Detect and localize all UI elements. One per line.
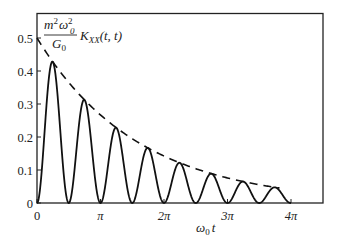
y-tick-label: 0.1 <box>17 164 33 178</box>
y-tick-label: 0.2 <box>17 131 33 145</box>
x-tick-label: 0 <box>34 209 40 223</box>
y-tick-label: 0.4 <box>17 65 33 79</box>
x-tick-label: π <box>97 209 104 223</box>
svg-text:KXX(t, t): KXX(t, t) <box>79 28 122 45</box>
oscillating-curve <box>37 62 291 203</box>
y-tick-label: 0.5 <box>17 32 33 46</box>
x-tick-label: 2π <box>158 209 171 223</box>
svg-text:m2ω2: m2ω2 <box>44 16 73 32</box>
x-tick-label: 4π <box>285 209 298 223</box>
svg-text:G0: G0 <box>52 36 66 53</box>
y-tick-label: 0 <box>27 197 33 211</box>
x-tick-label: 3π <box>220 209 234 223</box>
chart: 00.10.20.30.40.5 0π2π3π4π m2ω2 0 G0 KXX(… <box>0 0 338 237</box>
y-annotation: m2ω2 0 G0 KXX(t, t) <box>44 16 122 53</box>
x-axis-label: ω0t <box>196 220 216 237</box>
envelope-dashed-curve <box>37 38 280 188</box>
svg-text:0: 0 <box>70 26 75 36</box>
y-tick-label: 0.3 <box>17 98 33 112</box>
